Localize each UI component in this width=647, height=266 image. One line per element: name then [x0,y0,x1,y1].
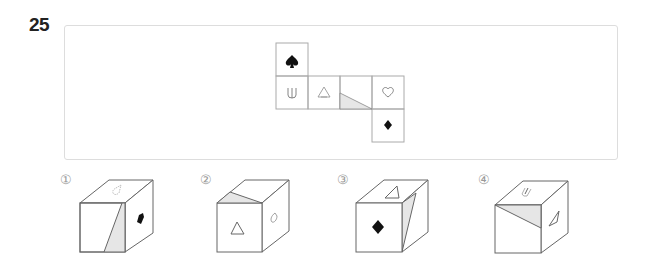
cube-net: ① ② ③ ④ [0,0,647,266]
option-3-label: ③ [337,172,349,187]
option-3-cube [356,180,428,252]
diamond-icon [384,120,392,130]
option-1-cube [80,180,153,252]
triangle-icon [318,87,330,97]
net-face-triangle [308,76,340,109]
option-2-cube [217,180,289,252]
option-4-label: ④ [478,172,490,187]
heart-icon [383,88,394,98]
spade-icon [286,55,298,68]
fork-icon [288,88,296,98]
net-face-heart [372,76,404,109]
option-1-label: ① [60,172,72,187]
option-2-label: ② [200,172,212,187]
shaded-triangle-icon [340,93,372,109]
option-4-cube [495,181,568,253]
